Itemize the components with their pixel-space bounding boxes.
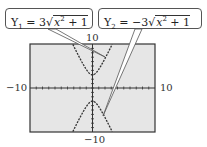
radical-sign: √: [46, 16, 53, 29]
radicand-rest: + 1: [65, 16, 88, 29]
equation-prefix: = 3: [23, 16, 46, 29]
radicand-rest: + 1: [167, 16, 190, 29]
xmin-label: −10: [6, 82, 27, 93]
ymax-label: 10: [86, 32, 99, 43]
radicand: x2 + 1: [155, 15, 190, 29]
callout-y1: Y1 = 3√x2 + 1: [5, 8, 93, 29]
radicand: x2 + 1: [53, 15, 88, 29]
ymin-label: −10: [84, 134, 105, 145]
xmax-label: 10: [160, 82, 173, 93]
callout-y2: Y2 = −3√x2 + 1: [98, 8, 202, 29]
equation-prefix: = −3: [116, 16, 148, 29]
